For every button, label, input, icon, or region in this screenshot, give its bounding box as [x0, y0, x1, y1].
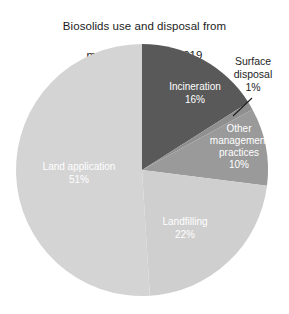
land-application-label-name: Land application [43, 161, 116, 172]
other-management-practices-label-line-1: Other [226, 123, 252, 134]
surface-disposal-label-value: 1% [245, 81, 260, 93]
pie-svg: Incineration 16% Other management practi… [0, 0, 289, 314]
surface-disposal-label-line-1: Surface [235, 55, 271, 67]
incineration-label-name: Incineration [169, 81, 221, 92]
other-management-practices-label-line-3: practices [219, 147, 259, 158]
landfilling-label-value: 22% [175, 229, 195, 240]
landfilling-label-name: Landfilling [162, 216, 207, 227]
incineration-label-value: 16% [185, 94, 205, 105]
other-management-practices-label-value: 10% [229, 159, 249, 170]
pie-chart-figure: Biosolids use and disposal from major PO… [0, 0, 289, 314]
land-application-label-value: 51% [69, 174, 89, 185]
pie-slice-landfilling[interactable] [142, 170, 267, 296]
surface-disposal-label-line-2: disposal [234, 68, 273, 80]
other-management-practices-label-line-2: management [210, 135, 269, 146]
